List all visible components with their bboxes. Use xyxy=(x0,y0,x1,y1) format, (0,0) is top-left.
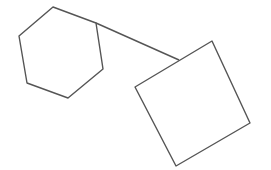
square-shape xyxy=(135,41,250,166)
diagram-canvas xyxy=(0,0,271,170)
connector-line xyxy=(96,23,179,60)
diagram-svg xyxy=(0,0,271,170)
hexagon-shape xyxy=(19,7,103,98)
